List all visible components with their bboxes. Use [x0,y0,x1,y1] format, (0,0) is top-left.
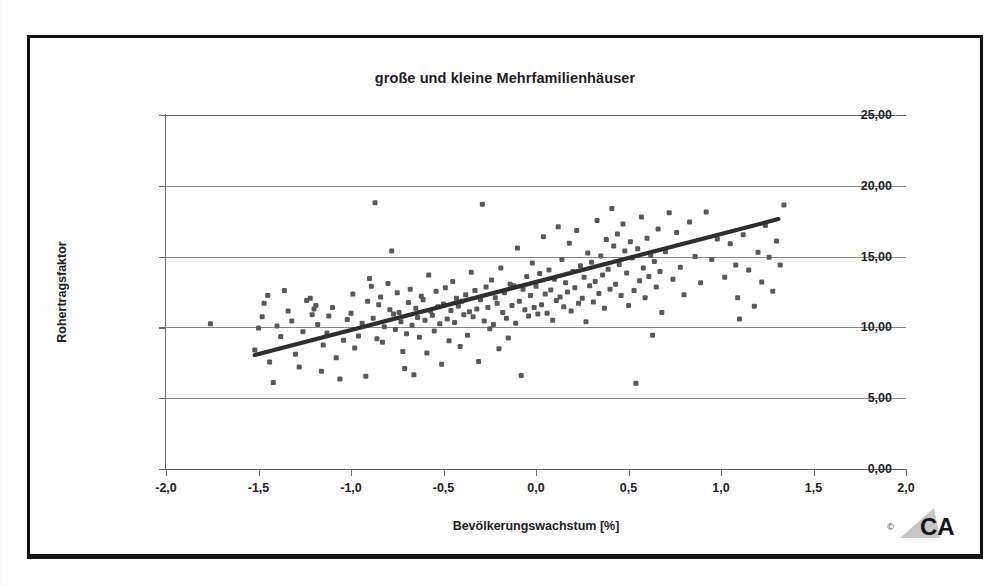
copyright-icon: © [887,522,894,532]
x-tick-label: -0,5 [433,481,455,495]
y-tick-mark [159,257,166,258]
y-tick-mark [159,115,166,116]
x-tick-mark [721,469,722,476]
x-tick-label: 1,0 [712,481,729,495]
y-axis-title: Rohertragsfaktor [55,241,69,342]
ca-logo: CA [894,504,966,542]
x-tick-mark [629,469,630,476]
trendline-layer [166,115,906,469]
x-tick-mark [166,469,167,476]
x-tick-label: -1,5 [248,481,270,495]
x-tick-label: 0,0 [527,481,544,495]
x-tick-mark [259,469,260,476]
x-tick-mark [536,469,537,476]
chart-title: große und kleine Mehrfamilienhäuser [30,70,980,86]
figure-frame: große und kleine Mehrfamilienhäuser Rohe… [27,35,983,557]
y-tick-mark [159,398,166,399]
x-tick-mark [444,469,445,476]
logo-text: CA [920,513,955,540]
y-tick-mark [159,186,166,187]
x-tick-label: 2,0 [897,481,914,495]
x-tick-mark [906,469,907,476]
x-tick-label: 0,5 [620,481,637,495]
x-axis-title: Bevölkerungswachstum [%] [166,519,906,533]
x-tick-label: -2,0 [155,481,177,495]
x-tick-mark [814,469,815,476]
x-tick-label: -1,0 [340,481,362,495]
y-tick-mark [159,327,166,328]
x-tick-mark [351,469,352,476]
y-tick-mark [159,469,166,470]
plot-area: 0,005,0010,0015,0020,0025,00 -2,0-1,5-1,… [166,115,906,469]
trend-line [255,219,779,355]
x-tick-label: 1,5 [805,481,822,495]
